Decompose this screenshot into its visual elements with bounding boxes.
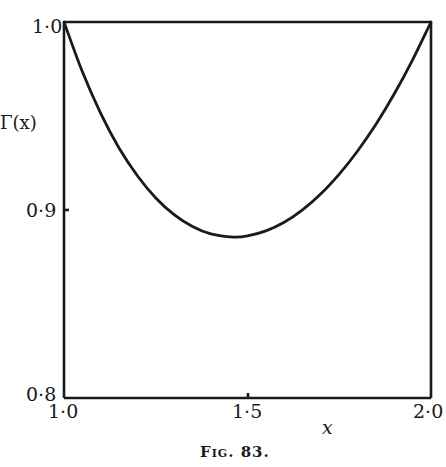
- x-tick-label-1-5: 1·5: [232, 402, 262, 421]
- x-axis-label: x: [322, 418, 333, 437]
- x-tick-label-2-0: 2·0: [413, 402, 443, 421]
- gamma-function-chart: [0, 0, 446, 467]
- y-tick-label-0-9: 0·9: [26, 201, 56, 220]
- y-tick-label-1-0: 1·0: [32, 17, 62, 36]
- figure-caption: Fig. 83.: [200, 443, 270, 461]
- x-tick-label-1-0: 1·0: [48, 402, 78, 421]
- y-axis-label: Γ(x): [0, 114, 37, 132]
- plot-frame: [64, 22, 431, 398]
- gamma-curve: [64, 22, 431, 237]
